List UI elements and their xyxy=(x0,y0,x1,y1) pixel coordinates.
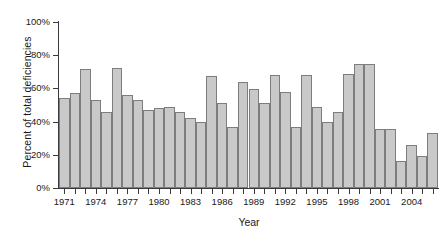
y-axis-tick-label: 60% xyxy=(6,83,50,93)
x-axis-tick xyxy=(75,189,76,194)
x-axis-tick xyxy=(296,189,297,194)
bar xyxy=(333,112,344,188)
x-axis-tick xyxy=(433,189,434,194)
x-axis-line xyxy=(58,188,439,189)
x-axis-tick xyxy=(64,189,65,194)
bar xyxy=(427,133,438,188)
x-axis-tick xyxy=(138,189,139,194)
x-axis-tick xyxy=(96,189,97,194)
bar xyxy=(143,110,154,188)
bar xyxy=(249,89,260,188)
x-axis-tick xyxy=(370,189,371,194)
bar xyxy=(101,112,112,188)
bar xyxy=(417,156,428,188)
bar xyxy=(164,107,175,188)
bar xyxy=(175,112,186,188)
bar xyxy=(322,122,333,188)
bar xyxy=(406,145,417,188)
bar xyxy=(385,129,396,188)
x-axis-tick xyxy=(212,189,213,194)
y-axis-tick-label: 20% xyxy=(6,150,50,160)
bar xyxy=(196,122,207,188)
x-axis-tick xyxy=(264,189,265,194)
y-axis-tick-label: 40% xyxy=(6,117,50,127)
bar xyxy=(375,129,386,188)
bar xyxy=(217,103,228,188)
x-axis-tick xyxy=(117,189,118,194)
plot-area xyxy=(59,22,438,188)
x-axis-tick xyxy=(327,189,328,194)
x-axis-tick xyxy=(401,189,402,194)
x-axis-tick xyxy=(254,189,255,194)
x-axis-tick xyxy=(127,189,128,194)
bar xyxy=(185,118,196,188)
bar xyxy=(270,75,281,188)
x-axis-tick xyxy=(148,189,149,194)
x-axis-tick xyxy=(85,189,86,194)
x-axis-tick-label: 2004 xyxy=(392,196,432,207)
bar xyxy=(343,74,354,188)
x-axis-tick xyxy=(233,189,234,194)
x-axis-tick xyxy=(317,189,318,194)
x-axis-tick xyxy=(412,189,413,194)
bar xyxy=(133,100,144,188)
x-axis-tick xyxy=(191,189,192,194)
x-axis-tick xyxy=(285,189,286,194)
y-axis-tick-label: 0% xyxy=(6,183,50,193)
x-axis-tick xyxy=(222,189,223,194)
bar xyxy=(354,64,365,189)
y-axis-tick-label: 80% xyxy=(6,50,50,60)
x-axis-tick xyxy=(349,189,350,194)
bar xyxy=(280,92,291,188)
y-axis-tick-label: 100% xyxy=(6,17,50,27)
y-axis-tick xyxy=(53,188,59,189)
bar xyxy=(227,127,238,188)
x-axis-tick xyxy=(338,189,339,194)
x-axis-tick xyxy=(106,189,107,194)
bar xyxy=(122,95,133,188)
bar xyxy=(70,93,81,188)
bar xyxy=(364,64,375,189)
bar xyxy=(312,107,323,188)
x-axis-tick xyxy=(180,189,181,194)
x-axis-tick xyxy=(422,189,423,194)
bar xyxy=(291,127,302,188)
bar xyxy=(301,75,312,188)
bar xyxy=(112,68,123,188)
bar xyxy=(259,103,270,188)
x-axis-tick xyxy=(159,189,160,194)
x-axis-tick xyxy=(243,189,244,194)
bar xyxy=(59,98,70,188)
x-axis-tick xyxy=(275,189,276,194)
x-axis-tick xyxy=(170,189,171,194)
x-axis-tick xyxy=(359,189,360,194)
bar xyxy=(154,108,165,189)
bar xyxy=(206,76,217,188)
bar xyxy=(80,69,91,188)
x-axis-tick xyxy=(380,189,381,194)
bar xyxy=(396,161,407,188)
bar xyxy=(91,100,102,188)
y-axis-title: Percent of total deficiencies xyxy=(21,17,33,187)
bar xyxy=(238,82,249,188)
x-axis-tick xyxy=(201,189,202,194)
x-axis-tick xyxy=(306,189,307,194)
x-axis-title: Year xyxy=(59,216,439,228)
x-axis-tick xyxy=(391,189,392,194)
bar-chart-figure: Percent of total deficiencies Year 0%20%… xyxy=(0,0,445,242)
